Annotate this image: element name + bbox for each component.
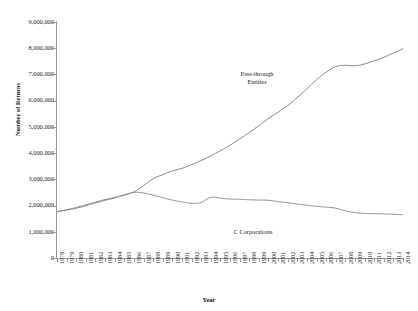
x-axis-tick-mark xyxy=(268,258,269,262)
x-axis-tick-label: 2009 xyxy=(357,234,363,264)
x-axis-tick-mark xyxy=(365,258,366,262)
x-axis-tick-mark xyxy=(67,258,68,262)
x-axis-tick-mark xyxy=(259,258,260,262)
x-axis-tick-labels: 1978197919801981198219831984198519861987… xyxy=(0,0,418,311)
x-axis-tick-mark xyxy=(336,258,337,262)
x-axis-tick-label: 1979 xyxy=(69,234,75,264)
x-axis-tick-mark xyxy=(355,258,356,262)
y-axis-tick-mark xyxy=(52,101,57,102)
x-axis-tick-label: 2000 xyxy=(271,234,277,264)
x-axis-tick-label: 2006 xyxy=(328,234,334,264)
x-axis-tick-label: 2002 xyxy=(290,234,296,264)
x-axis-tick-mark xyxy=(134,258,135,262)
x-axis-tick-mark xyxy=(76,258,77,262)
x-axis-tick-mark xyxy=(57,258,58,262)
x-axis-tick-label: 1983 xyxy=(107,234,113,264)
y-axis-tick-mark xyxy=(52,179,57,180)
x-axis-tick-mark xyxy=(211,258,212,262)
x-axis-tick-mark xyxy=(144,258,145,262)
x-axis-tick-label: 1978 xyxy=(59,234,65,264)
x-axis-tick-mark xyxy=(86,258,87,262)
series-label-pass-through-line2: Entities xyxy=(215,78,299,86)
x-axis-tick-mark xyxy=(124,258,125,262)
x-axis-tick-label: 1993 xyxy=(203,234,209,264)
x-axis-tick-label: 1991 xyxy=(184,234,190,264)
x-axis-tick-label: 1987 xyxy=(146,234,152,264)
x-axis-tick-label: 1997 xyxy=(242,234,248,264)
x-axis-tick-mark xyxy=(326,258,327,262)
series-label-pass-through-line1: Pass-through xyxy=(215,70,299,78)
series-label-pass-through: Pass-through Entities xyxy=(215,70,299,86)
x-axis-tick-mark xyxy=(182,258,183,262)
x-axis-tick-label: 2004 xyxy=(309,234,315,264)
x-axis-tick-mark xyxy=(288,258,289,262)
x-axis-tick-label: 2012 xyxy=(386,234,392,264)
x-axis-tick-mark xyxy=(278,258,279,262)
x-axis-tick-mark xyxy=(384,258,385,262)
chart-figure: Number of Returns 9,000,0008,000,0007,00… xyxy=(0,0,418,311)
x-axis-tick-label: 2010 xyxy=(367,234,373,264)
y-axis-tick-mark xyxy=(52,206,57,207)
x-axis-tick-mark xyxy=(163,258,164,262)
x-axis-tick-label: 2014 xyxy=(405,234,411,264)
x-axis-tick-mark xyxy=(345,258,346,262)
x-axis-tick-label: 2003 xyxy=(299,234,305,264)
x-axis-tick-mark xyxy=(230,258,231,262)
x-axis-tick-mark xyxy=(105,258,106,262)
y-axis-tick-mark xyxy=(52,22,57,23)
x-axis-tick-mark xyxy=(374,258,375,262)
series-label-c-corporations: C Corporations xyxy=(205,228,301,236)
x-axis-tick-mark xyxy=(115,258,116,262)
x-axis-tick-mark xyxy=(95,258,96,262)
x-axis-tick-label: 1982 xyxy=(98,234,104,264)
x-axis-tick-mark xyxy=(172,258,173,262)
x-axis-tick-label: 1996 xyxy=(232,234,238,264)
x-axis-tick-label: 1992 xyxy=(194,234,200,264)
x-axis-tick-label: 1980 xyxy=(78,234,84,264)
x-axis-tick-label: 1994 xyxy=(213,234,219,264)
x-axis-tick-mark xyxy=(393,258,394,262)
x-axis-title: Year xyxy=(0,296,418,303)
x-axis-tick-mark xyxy=(201,258,202,262)
x-axis-tick-label: 2008 xyxy=(348,234,354,264)
x-axis-tick-mark xyxy=(403,258,404,262)
x-axis-tick-label: 1988 xyxy=(155,234,161,264)
x-axis-tick-label: 2011 xyxy=(376,234,382,264)
y-axis-tick-mark xyxy=(52,153,57,154)
x-axis-tick-label: 1998 xyxy=(251,234,257,264)
y-axis-tick-mark xyxy=(52,74,57,75)
x-axis-tick-label: 1985 xyxy=(126,234,132,264)
x-axis-tick-label: 1990 xyxy=(175,234,181,264)
x-axis-tick-label: 1986 xyxy=(136,234,142,264)
x-axis-tick-label: 1984 xyxy=(117,234,123,264)
x-axis-tick-label: 2013 xyxy=(396,234,402,264)
x-axis-tick-mark xyxy=(220,258,221,262)
x-axis-tick-mark xyxy=(153,258,154,262)
x-axis-tick-label: 1999 xyxy=(261,234,267,264)
y-axis-tick-mark xyxy=(52,48,57,49)
x-axis-tick-label: 1981 xyxy=(88,234,94,264)
x-axis-tick-mark xyxy=(317,258,318,262)
x-axis-tick-label: 2005 xyxy=(319,234,325,264)
y-axis-tick-mark xyxy=(52,232,57,233)
x-axis-tick-mark xyxy=(307,258,308,262)
x-axis-tick-label: 1989 xyxy=(165,234,171,264)
y-axis-tick-mark xyxy=(52,127,57,128)
x-axis-tick-mark xyxy=(297,258,298,262)
x-axis-tick-mark xyxy=(192,258,193,262)
x-axis-tick-mark xyxy=(249,258,250,262)
x-axis-tick-label: 2001 xyxy=(280,234,286,264)
x-axis-tick-label: 1995 xyxy=(223,234,229,264)
x-axis-tick-label: 2007 xyxy=(338,234,344,264)
x-axis-tick-mark xyxy=(240,258,241,262)
